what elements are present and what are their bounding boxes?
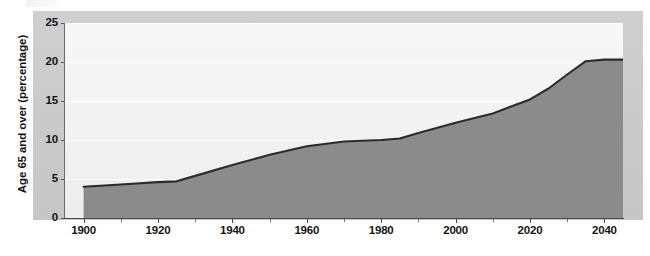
x-tick-mark-2020: [530, 219, 531, 223]
x-tick-mark-2040: [604, 219, 605, 223]
x-tick-minor-2010: [493, 219, 494, 222]
y-axis-title: Age 65 and over (percentage): [16, 19, 28, 209]
x-tick-minor-2030: [567, 219, 568, 222]
x-tick-label-2040: 2040: [584, 224, 624, 236]
x-tick-minor-1930: [195, 219, 196, 222]
x-tick-label-1920: 1920: [138, 224, 178, 236]
x-tick-label-2000: 2000: [436, 224, 476, 236]
x-tick-minor-1990: [418, 219, 419, 222]
x-tick-mark-1940: [232, 219, 233, 223]
x-tick-mark-1920: [158, 219, 159, 223]
x-tick-label-1940: 1940: [212, 224, 252, 236]
x-tick-mark-2000: [456, 219, 457, 223]
chart-root: 0510152025 19001920194019601980200020202…: [0, 0, 650, 256]
x-tick-label-1960: 1960: [287, 224, 327, 236]
x-tick-mark-1900: [84, 219, 85, 223]
x-tick-label-1980: 1980: [361, 224, 401, 236]
x-tick-minor-1970: [344, 219, 345, 222]
x-tick-minor-1910: [121, 219, 122, 222]
x-tick-label-1900: 1900: [64, 224, 104, 236]
x-tick-mark-1980: [381, 219, 382, 223]
x-tick-minor-1950: [270, 219, 271, 222]
x-axis-ticks: 19001920194019601980200020202040: [0, 0, 650, 256]
x-tick-label-2020: 2020: [510, 224, 550, 236]
x-tick-mark-1960: [307, 219, 308, 223]
